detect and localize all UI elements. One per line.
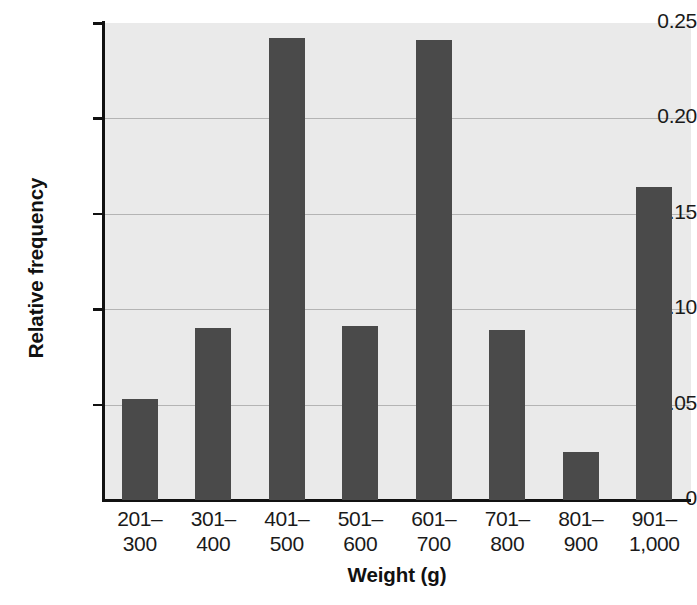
bar bbox=[563, 452, 599, 500]
relative-frequency-histogram: Relative frequency 00.050.100.150.200.25… bbox=[0, 0, 697, 605]
bar bbox=[195, 328, 231, 500]
bar bbox=[416, 40, 452, 500]
bar bbox=[122, 399, 158, 500]
bar bbox=[269, 38, 305, 500]
bar bbox=[489, 330, 525, 500]
x-axis-title: Weight (g) bbox=[103, 563, 691, 587]
bar bbox=[342, 326, 378, 500]
bar-series bbox=[103, 23, 691, 500]
bar bbox=[636, 187, 672, 500]
x-tick-label-line: 1,000 bbox=[606, 531, 697, 556]
y-axis-title: Relative frequency bbox=[24, 128, 48, 408]
x-tick-label: 901–1,000 bbox=[606, 506, 697, 556]
x-tick-label-line: 901– bbox=[606, 506, 697, 531]
